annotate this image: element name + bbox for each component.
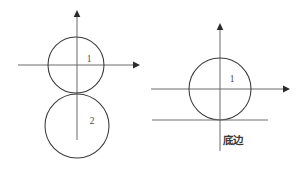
- left-y-axis-arrowhead: [74, 10, 81, 17]
- right-circle-1-label: 1: [230, 74, 235, 84]
- base-line-label: 底边: [223, 134, 244, 146]
- right-y-axis-arrowhead: [217, 23, 224, 30]
- left-circle-1-label: 1: [87, 54, 92, 64]
- right-x-axis-arrowhead: [283, 86, 290, 93]
- left-figure-group: 1 2: [18, 10, 140, 158]
- right-figure-group: 1 底边: [151, 23, 290, 151]
- geometry-diagram-canvas: 1 2 1 底边: [0, 0, 306, 170]
- left-circle-2-label: 2: [90, 116, 95, 126]
- left-x-axis-arrowhead: [133, 62, 140, 69]
- diagram-svg: 1 2 1 底边: [0, 0, 306, 170]
